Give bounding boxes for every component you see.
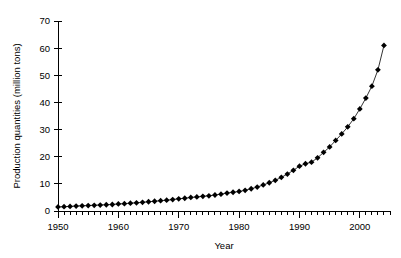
x-tick-label: 1980 (229, 221, 250, 232)
x-tick-label: 1970 (168, 221, 189, 232)
data-point-marker (230, 189, 236, 195)
data-point-marker (188, 195, 194, 201)
y-axis-tick-labels: 010203040506070 (39, 15, 50, 216)
x-tick-label: 1990 (289, 221, 310, 232)
data-point-marker (309, 159, 315, 165)
data-point-marker (266, 180, 272, 186)
x-axis-title: Year (214, 240, 233, 251)
x-axis-tick-labels: 195019601970198019902000 (47, 221, 370, 232)
data-point-marker (67, 203, 73, 209)
data-point-marker (128, 200, 134, 206)
data-point-marker (164, 197, 170, 203)
data-point-marker (61, 204, 67, 210)
y-tick-label: 20 (39, 151, 50, 162)
data-point-marker (224, 190, 230, 196)
data-point-marker (363, 95, 369, 101)
data-point-marker (79, 203, 85, 209)
y-tick-label: 10 (39, 178, 50, 189)
data-point-marker (297, 163, 303, 169)
data-point-marker (381, 43, 387, 49)
data-point-marker (218, 191, 224, 197)
chart-container: 010203040506070 195019601970198019902000… (0, 0, 401, 258)
data-point-marker (170, 197, 176, 203)
x-tick-label: 1960 (108, 221, 129, 232)
data-point-marker (357, 106, 363, 112)
y-axis-title: Production quantities (million tons) (11, 43, 22, 188)
data-point-marker (97, 202, 103, 208)
data-point-marker (146, 199, 152, 205)
data-point-marker (200, 193, 206, 199)
data-point-marker (115, 201, 121, 207)
data-point-marker (122, 201, 128, 207)
y-tick-label: 40 (39, 97, 50, 108)
data-point-marker (369, 83, 375, 89)
y-tick-label: 50 (39, 70, 50, 81)
x-tick-label: 1950 (47, 221, 68, 232)
data-point-marker (176, 196, 182, 202)
y-tick-label: 60 (39, 43, 50, 54)
data-point-marker (375, 67, 381, 73)
data-point-marker (206, 193, 212, 199)
y-axis: 010203040506070 (39, 15, 62, 216)
data-point-marker (284, 171, 290, 177)
x-axis: 195019601970198019902000 (47, 211, 390, 232)
data-point-marker (254, 184, 260, 190)
data-series-markers (55, 43, 387, 210)
data-point-marker (55, 204, 61, 210)
data-point-marker (260, 182, 266, 188)
data-point-marker (272, 177, 278, 183)
data-point-marker (140, 199, 146, 205)
data-point-marker (248, 186, 254, 192)
x-tick-label: 2000 (349, 221, 370, 232)
y-tick-label: 0 (45, 205, 50, 216)
data-point-marker (291, 167, 297, 173)
data-point-marker (91, 202, 97, 208)
y-tick-label: 70 (39, 15, 50, 26)
data-point-marker (134, 200, 140, 206)
data-point-marker (73, 203, 79, 209)
data-point-marker (152, 198, 158, 204)
x-axis-minor-ticks (58, 211, 390, 215)
y-tick-label: 30 (39, 124, 50, 135)
data-point-marker (242, 187, 248, 193)
data-series-line (58, 45, 384, 207)
data-point-marker (212, 192, 218, 198)
data-point-marker (158, 198, 164, 204)
data-point-marker (278, 174, 284, 180)
data-point-marker (351, 116, 357, 122)
data-point-marker (103, 202, 109, 208)
data-point-marker (109, 202, 115, 208)
data-point-marker (236, 189, 242, 195)
data-point-marker (182, 195, 188, 201)
data-point-marker (194, 194, 200, 200)
data-point-marker (303, 161, 309, 167)
production-quantities-line-chart: 010203040506070 195019601970198019902000… (0, 0, 401, 258)
data-point-marker (85, 203, 91, 209)
